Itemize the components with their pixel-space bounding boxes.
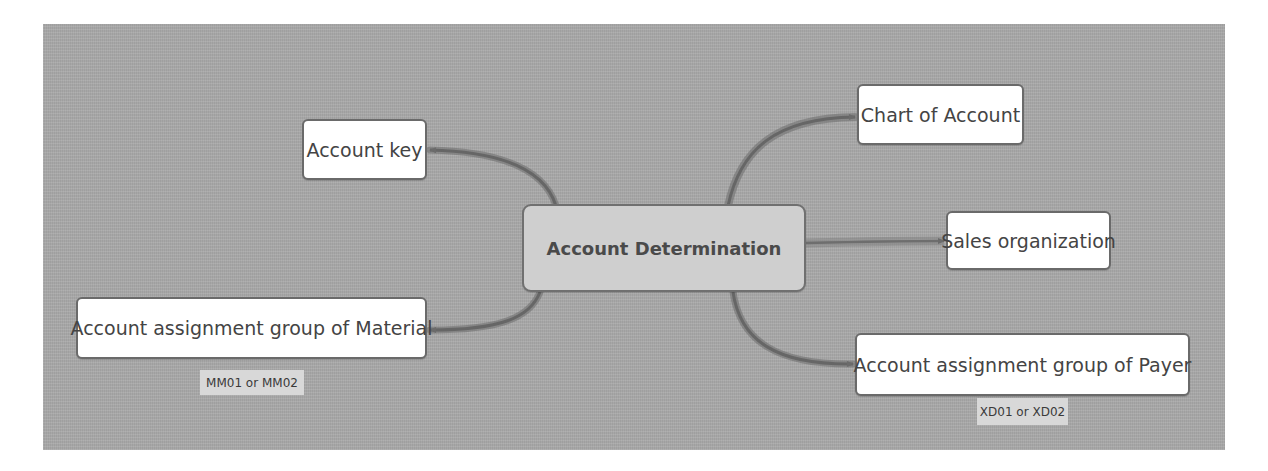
node-label: Account assignment group of Payer: [854, 354, 1192, 376]
node-account-key[interactable]: Account key: [302, 119, 427, 180]
node-label: Chart of Account: [861, 104, 1020, 126]
central-node-label: Account Determination: [547, 238, 782, 259]
node-label: Account assignment group of Material: [70, 317, 432, 339]
note-payer-tcodes: XD01 or XD02: [977, 398, 1068, 425]
node-chart-of-account[interactable]: Chart of Account: [857, 84, 1024, 145]
node-label: Account key: [306, 139, 422, 161]
node-sales-organization[interactable]: Sales organization: [946, 211, 1111, 270]
node-account-assignment-group-material[interactable]: Account assignment group of Material: [76, 297, 427, 359]
node-account-assignment-group-payer[interactable]: Account assignment group of Payer: [855, 333, 1190, 396]
note-label: MM01 or MM02: [206, 376, 298, 390]
central-node-account-determination[interactable]: Account Determination: [522, 204, 806, 292]
node-label: Sales organization: [941, 230, 1116, 252]
note-material-tcodes: MM01 or MM02: [200, 370, 304, 395]
note-label: XD01 or XD02: [980, 405, 1065, 419]
